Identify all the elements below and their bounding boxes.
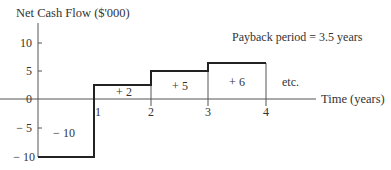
- net-cash-flow-chart: Net Cash Flow ($'000) 10 5 0 − 5 − 10 Ti…: [0, 0, 391, 170]
- bar-label-year-4: + 6: [229, 75, 245, 89]
- payback-period-annotation: Payback period = 3.5 years: [232, 30, 363, 44]
- y-axis-label: Net Cash Flow ($'000): [16, 6, 130, 20]
- x-tick-1: 1: [95, 105, 101, 119]
- x-tick-2: 2: [148, 105, 154, 119]
- x-tick-4: 4: [263, 105, 269, 119]
- y-tick-minus-10: − 10: [13, 150, 35, 164]
- y-tick-10: 10: [20, 36, 32, 50]
- bar-label-year-3: + 5: [172, 79, 188, 93]
- y-tick-labels: 10 5 0 − 5 − 10: [13, 36, 35, 164]
- etc-annotation: etc.: [282, 75, 299, 89]
- y-tick-5: 5: [26, 64, 32, 78]
- y-tick-minus-5: − 5: [16, 121, 32, 135]
- x-axis-label: Time (years): [321, 92, 385, 106]
- x-tick-labels: 1 2 3 4: [95, 105, 269, 119]
- x-tick-3: 3: [205, 105, 211, 119]
- bar-label-year-1: − 10: [53, 126, 75, 140]
- y-ticks: [38, 43, 42, 128]
- bar-label-year-2: + 2: [116, 85, 132, 99]
